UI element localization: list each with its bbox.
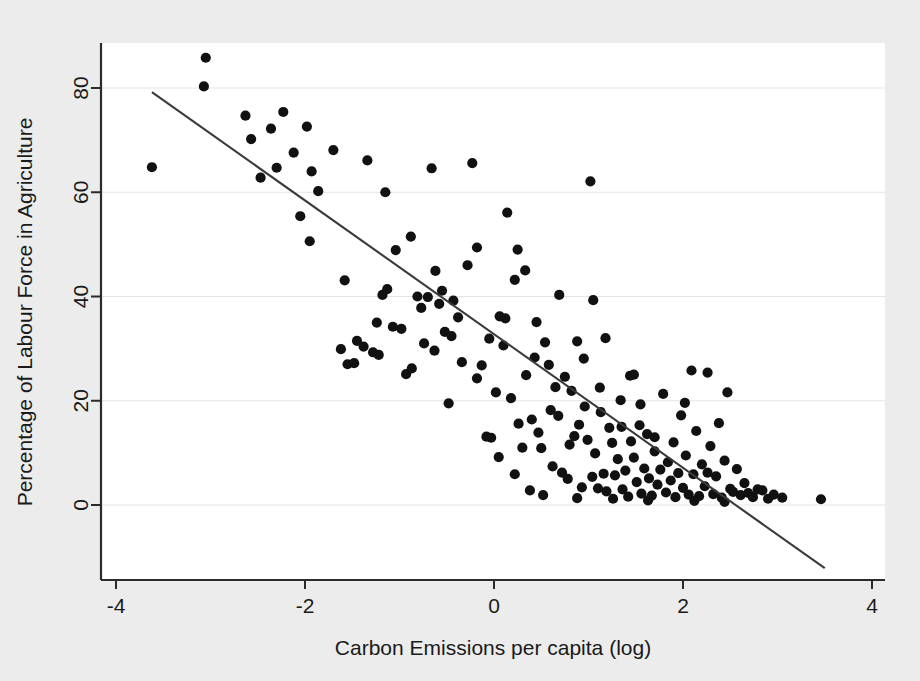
scatter-point — [289, 148, 299, 158]
scatter-point — [328, 145, 338, 155]
scatter-point — [629, 370, 639, 380]
scatter-point — [486, 433, 496, 443]
y-axis-tick-labels: 020406080 — [69, 76, 92, 511]
scatter-point — [396, 324, 406, 334]
scatter-point — [255, 173, 265, 183]
scatter-point — [550, 382, 560, 392]
scatter-point — [580, 401, 590, 411]
scatter-point — [358, 341, 368, 351]
scatter-point — [278, 107, 288, 117]
scatter-point — [416, 303, 426, 313]
scatter-point — [340, 275, 350, 285]
x-tick-label: 2 — [677, 594, 689, 617]
scatter-point — [380, 187, 390, 197]
scatter-point — [608, 494, 618, 504]
scatter-point — [434, 299, 444, 309]
scatter-point — [635, 399, 645, 409]
scatter-point — [307, 166, 317, 176]
scatter-point — [634, 420, 644, 430]
scatter-point — [607, 438, 617, 448]
scatter-point — [604, 423, 614, 433]
scatter-point — [572, 336, 582, 346]
x-axis-title: Carbon Emissions per capita (log) — [335, 636, 651, 659]
scatter-point — [427, 163, 437, 173]
scatter-point — [246, 134, 256, 144]
scatter-point — [513, 419, 523, 429]
scatter-point — [702, 368, 712, 378]
scatter-point — [620, 465, 630, 475]
scatter-point — [472, 242, 482, 252]
scatter-point — [484, 334, 494, 344]
y-axis-ticks — [91, 88, 101, 505]
scatter-point — [295, 211, 305, 221]
scatter-point — [477, 360, 487, 370]
scatter-point — [623, 492, 633, 502]
scatter-point — [430, 266, 440, 276]
scatter-point — [377, 290, 387, 300]
scatter-point — [610, 470, 620, 480]
scatter-point — [560, 372, 570, 382]
scatter-point — [513, 244, 523, 254]
scatter-point — [714, 418, 724, 428]
scatter-point — [686, 365, 696, 375]
scatter-point — [240, 111, 250, 121]
scatter-point — [407, 363, 417, 373]
scatter-point — [147, 162, 157, 172]
scatter-point — [658, 389, 668, 399]
scatter-point — [494, 452, 504, 462]
scatter-point — [201, 53, 211, 63]
scatter-point — [412, 291, 422, 301]
scatter-point — [349, 358, 359, 368]
scatter-point — [391, 245, 401, 255]
scatter-point — [500, 313, 510, 323]
scatter-point — [199, 81, 209, 91]
scatter-point — [661, 487, 671, 497]
scatter-point — [643, 495, 653, 505]
scatter-point — [547, 461, 557, 471]
scatter-point — [388, 322, 398, 332]
x-tick-label: -4 — [107, 594, 126, 617]
scatter-point — [680, 398, 690, 408]
scatter-point — [616, 395, 626, 405]
scatter-point — [544, 360, 554, 370]
scatter-point — [429, 346, 439, 356]
figure-container: -4-2024 020406080 Carbon Emissions per c… — [0, 0, 920, 681]
scatter-point — [531, 317, 541, 327]
scatter-point — [266, 124, 276, 134]
scatter-point — [650, 432, 660, 442]
scatter-point — [588, 295, 598, 305]
scatter-point — [362, 155, 372, 165]
scatter-point — [444, 398, 454, 408]
scatter-point — [722, 387, 732, 397]
scatter-point — [563, 474, 573, 484]
scatter-point — [313, 186, 323, 196]
scatter-point — [462, 260, 472, 270]
scatter-point — [533, 427, 543, 437]
scatter-point — [565, 439, 575, 449]
scatter-point — [491, 387, 501, 397]
scatter-point — [305, 236, 315, 246]
scatter-point — [540, 337, 550, 347]
scatter-point — [681, 450, 691, 460]
x-tick-label: 0 — [488, 594, 500, 617]
y-tick-label: 80 — [69, 76, 92, 99]
scatter-point — [585, 176, 595, 186]
scatter-point — [546, 405, 556, 415]
scatter-point — [590, 448, 600, 458]
scatter-point — [599, 469, 609, 479]
scatter-point — [572, 493, 582, 503]
scatter-point — [467, 158, 477, 168]
y-axis-title: Percentage of Labour Force in Agricultur… — [13, 118, 36, 507]
scatter-point — [302, 121, 312, 131]
scatter-point — [668, 437, 678, 447]
scatter-point — [666, 475, 676, 485]
y-tick-label: 40 — [69, 285, 92, 308]
scatter-point — [520, 265, 530, 275]
scatter-point — [739, 478, 749, 488]
scatter-point — [406, 231, 416, 241]
scatter-point — [816, 494, 826, 504]
scatter-point — [374, 350, 384, 360]
scatter-point — [702, 468, 712, 478]
scatter-point — [419, 338, 429, 348]
scatter-point — [629, 452, 639, 462]
